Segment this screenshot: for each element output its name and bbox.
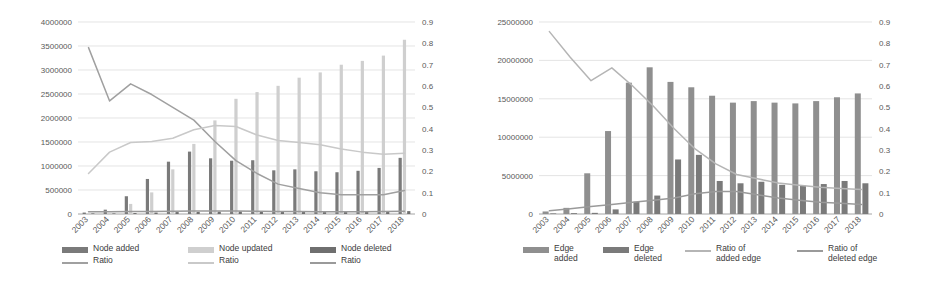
x-axis-tick-label: 2015 [322,214,343,235]
bar [605,131,611,214]
bar [112,213,115,214]
legend-label: Node updated [219,243,272,253]
bar [592,213,598,214]
svg-text:2006: 2006 [133,214,154,235]
x-axis-tick-label: 2010 [217,214,238,235]
y-axis-right-tick-label: 0.6 [879,82,891,91]
legend-item[interactable]: Ratio [310,255,392,265]
svg-text:2004: 2004 [91,214,112,235]
bar [218,212,221,214]
legend-label: Edge added [554,243,578,263]
svg-text:2011: 2011 [697,214,717,234]
legend-item[interactable]: Node added [62,243,139,253]
x-axis-tick-label: 2006 [133,214,154,235]
bar [633,202,639,214]
bar [276,86,279,214]
legend-item[interactable]: Ratio of deleted edge [797,243,877,263]
x-axis-tick-label: 2010 [676,214,697,235]
node-chart-plot: 0500000100000015000002000000250000030000… [0,0,467,245]
svg-text:2008: 2008 [175,214,196,235]
x-axis-tick-label: 2015 [780,214,801,235]
x-axis-tick-label: 2016 [343,214,364,235]
x-axis-tick-label: 2004 [91,214,112,235]
legend-group: Edge added [523,243,578,263]
x-axis-tick-label: 2016 [801,214,822,235]
svg-text:2003: 2003 [69,214,90,235]
legend-item[interactable]: Node updated [188,243,272,253]
y-axis-right-tick-label: 0 [879,210,884,219]
bar [234,99,237,214]
x-axis-tick-label: 2011 [697,214,717,234]
bar [571,213,577,214]
bar [647,67,653,214]
legend-label: Ratio [93,255,113,265]
y-axis-right-tick-label: 0.5 [879,103,891,112]
bar [293,169,296,214]
bar [213,120,216,214]
svg-text:2012: 2012 [718,214,739,235]
y-axis-left-tick-label: 1000000 [41,162,73,171]
x-axis-tick-label: 2018 [843,214,864,235]
svg-text:2012: 2012 [259,214,280,235]
bar [751,101,757,214]
svg-text:2010: 2010 [676,214,697,235]
bar [399,158,402,214]
legend-line-swatch [310,262,336,264]
edge-chart-panel: 0500000010000000150000002000000025000000… [467,0,934,287]
bar [626,83,632,214]
x-axis-tick-label: 2011 [238,214,258,234]
legend-group: Ratio of added edge [685,243,761,263]
legend-label: Ratio [219,255,239,265]
bar [154,213,157,214]
bar [842,181,848,214]
bar [255,92,258,214]
bar [298,78,301,214]
legend-bar-swatch [62,247,88,253]
y-axis-right-tick-label: 0.3 [422,146,434,155]
legend-line-swatch [62,262,88,264]
legend-group: Node deletedRatio [310,243,392,265]
legend-group: Edge deleted [603,243,662,263]
bar [813,101,819,214]
svg-text:2015: 2015 [780,214,801,235]
legend-item[interactable]: Ratio [188,255,272,265]
bar [356,171,359,214]
bar [188,152,191,214]
y-axis-right-tick-label: 0.7 [422,61,434,70]
svg-text:2007: 2007 [614,214,635,235]
legend-item[interactable]: Node deleted [310,243,392,253]
y-axis-left-tick-label: 5000000 [502,172,534,181]
bar [335,172,338,214]
y-axis-left-tick-label: 4000000 [41,18,73,27]
x-axis-tick-label: 2014 [759,214,780,235]
x-axis-tick-label: 2008 [634,214,655,235]
y-axis-left-tick-label: 0 [529,210,534,219]
bar [192,144,195,214]
bar [167,162,170,214]
bar [230,161,233,214]
x-axis-tick-label: 2004 [551,214,572,235]
legend-item[interactable]: Edge deleted [603,243,662,263]
y-axis-left-tick-label: 20000000 [497,56,533,65]
svg-text:2005: 2005 [112,214,133,235]
y-axis-left-tick-label: 15000000 [497,95,533,104]
x-axis-tick-label: 2012 [259,214,280,235]
bar [133,213,136,214]
legend-group: Node addedRatio [62,243,139,265]
legend-bar-swatch [310,247,336,253]
y-axis-right-tick-label: 0.9 [879,18,891,27]
legend-item[interactable]: Ratio [62,255,139,265]
bar [197,212,200,214]
legend-item[interactable]: Edge added [523,243,578,263]
y-axis-right-tick-label: 0.2 [422,167,434,176]
bar [403,40,406,214]
node-chart-legend: Node addedRatioNode updatedRatioNode del… [0,243,467,283]
y-axis-right-tick-label: 0.1 [879,189,891,198]
legend-item[interactable]: Ratio of added edge [685,243,761,263]
y-axis-right-tick-label: 0.5 [422,103,434,112]
x-axis-tick-label: 2018 [385,214,406,235]
svg-text:2018: 2018 [385,214,406,235]
x-axis-tick-label: 2007 [154,214,175,235]
svg-text:2008: 2008 [634,214,655,235]
edge-chart-plot: 0500000010000000150000002000000025000000… [467,0,934,245]
